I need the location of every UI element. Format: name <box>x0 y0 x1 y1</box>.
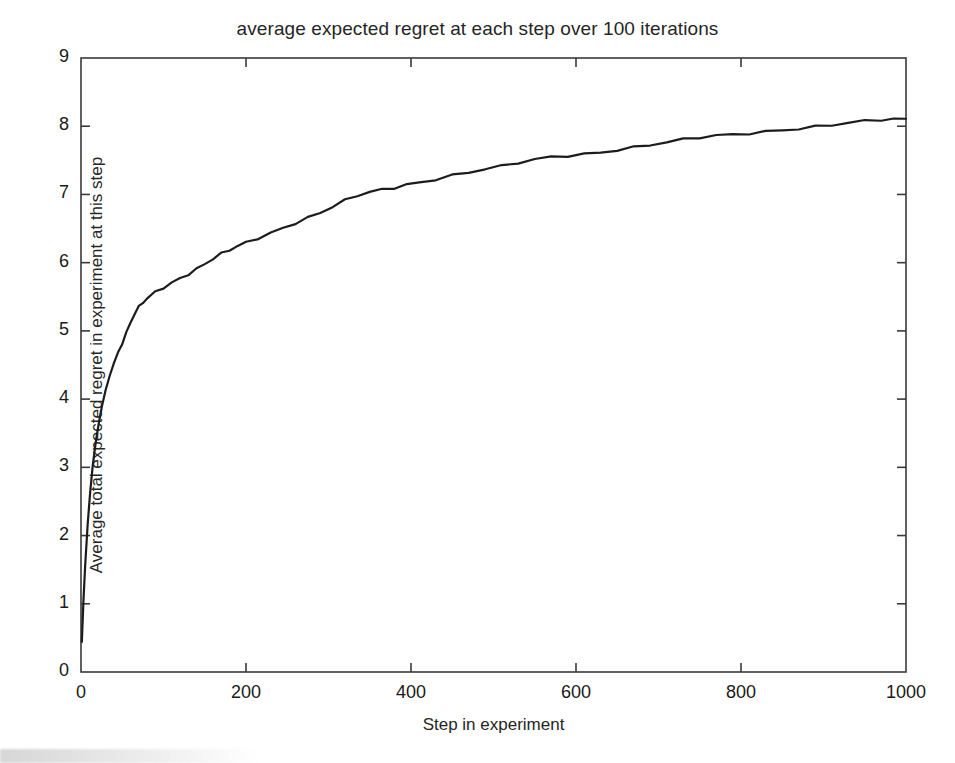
y-tick-label: 6 <box>29 251 69 272</box>
x-tick-label: 400 <box>396 682 426 703</box>
y-tick-label: 0 <box>29 660 69 681</box>
y-tick-label: 3 <box>29 455 69 476</box>
plot-area <box>0 0 955 763</box>
y-tick-label: 8 <box>29 114 69 135</box>
x-tick-label: 800 <box>726 682 756 703</box>
axis-ticks <box>81 58 906 672</box>
y-tick-label: 9 <box>29 46 69 67</box>
data-line-0 <box>82 119 906 642</box>
y-tick-label: 5 <box>29 319 69 340</box>
x-tick-label: 1000 <box>886 682 926 703</box>
y-tick-label: 4 <box>29 387 69 408</box>
axes-frame <box>81 58 906 672</box>
axes-border <box>81 58 906 672</box>
x-tick-label: 200 <box>231 682 261 703</box>
y-tick-label: 7 <box>29 182 69 203</box>
page-edge-artifact <box>0 749 260 763</box>
y-tick-label: 2 <box>29 524 69 545</box>
x-tick-label: 600 <box>561 682 591 703</box>
data-series-group <box>82 119 906 642</box>
y-tick-label: 1 <box>29 592 69 613</box>
x-tick-label: 0 <box>76 682 86 703</box>
figure-canvas: average expected regret at each step ove… <box>0 0 955 763</box>
